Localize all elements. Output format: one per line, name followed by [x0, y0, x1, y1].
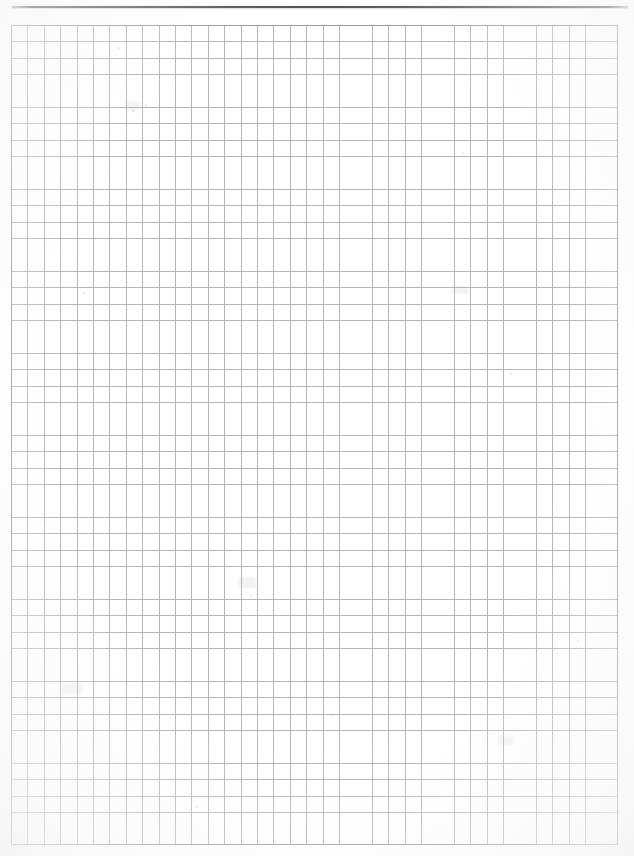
graph-paper-grid	[11, 25, 618, 845]
header-rule	[12, 6, 628, 8]
scanned-page	[0, 0, 634, 856]
top-page-mark	[357, 0, 375, 6]
